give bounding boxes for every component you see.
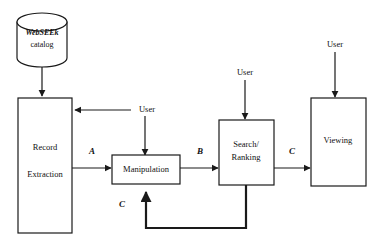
datastore-label-line1: WebSEEk bbox=[25, 28, 58, 37]
viewing-label: Viewing bbox=[324, 135, 354, 145]
search-ranking-label-line1: Search/ bbox=[233, 139, 259, 149]
actor-user-search-ranking: User bbox=[237, 67, 253, 77]
record-extraction-box[interactable] bbox=[18, 98, 72, 233]
search-ranking-label-line2: Ranking bbox=[232, 152, 262, 162]
record-extraction-label-line2: Extraction bbox=[27, 169, 63, 179]
manipulation-label: Manipulation bbox=[123, 164, 170, 174]
datastore-webseek-catalog: WebSEEk catalog bbox=[17, 13, 67, 67]
edge-label-b: B bbox=[196, 146, 203, 156]
diagram-canvas: WebSEEk catalog Record Extraction User A… bbox=[0, 0, 382, 245]
datastore-label-line2: catalog bbox=[30, 40, 53, 49]
node-manipulation[interactable]: Manipulation bbox=[112, 155, 180, 184]
edge-feedback-search-ranking-to-manipulation bbox=[146, 185, 246, 228]
node-viewing[interactable]: Viewing bbox=[311, 98, 366, 186]
record-extraction-label-line1: Record bbox=[33, 142, 58, 152]
node-record-extraction[interactable]: Record Extraction bbox=[18, 98, 72, 233]
dataflow-diagram: WebSEEk catalog Record Extraction User A… bbox=[0, 0, 382, 245]
edge-label-c-feedback: C bbox=[119, 199, 126, 209]
actor-user-record-extraction: User bbox=[139, 104, 155, 114]
edge-label-a: A bbox=[88, 146, 95, 156]
edge-label-c-viewing: C bbox=[289, 146, 296, 156]
node-search-ranking[interactable]: Search/ Ranking bbox=[219, 120, 274, 185]
actor-user-viewing: User bbox=[327, 39, 343, 49]
